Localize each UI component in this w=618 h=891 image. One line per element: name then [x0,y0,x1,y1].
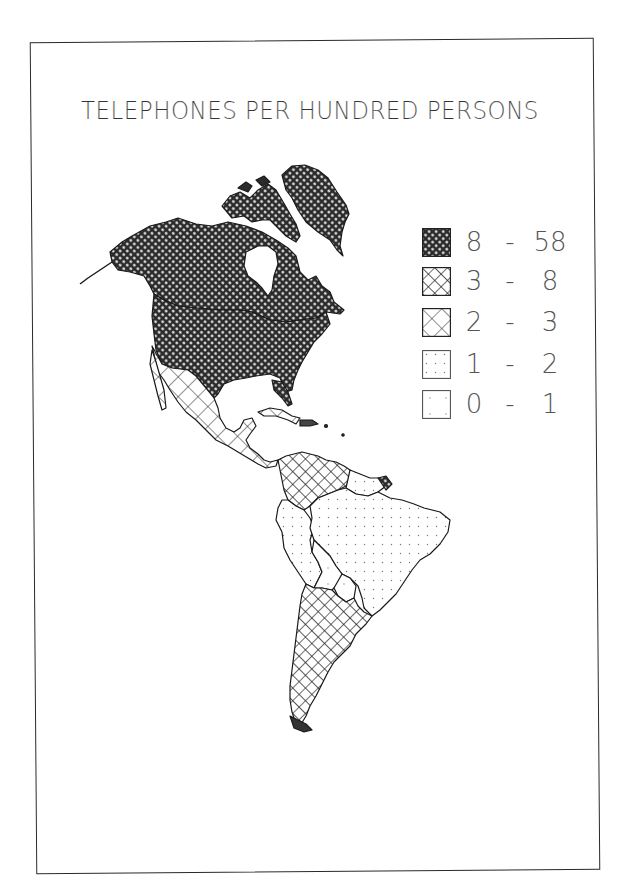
region-greenland [282,165,349,256]
legend-item: 1 - 2 [422,350,582,380]
legend-item: 3 - 8 [422,267,582,297]
legend-dash: - [500,226,520,258]
legend-swatch-medium-crosshatch [422,267,451,296]
legend-low: 2 [462,306,486,338]
region-canada-alaska [110,218,344,322]
legend-dash: - [500,388,520,420]
legend-swatch-dots [422,350,451,379]
legend-high: 58 [528,226,572,258]
legend-high: 2 [528,348,572,380]
legend-item: 8 - 58 [422,228,582,258]
legend-low: 1 [462,348,486,380]
legend-high: 8 [528,265,572,297]
legend-swatch-dense-crosshatch [422,228,451,257]
legend-low: 0 [462,388,486,420]
legend-item: 2 - 3 [422,308,582,338]
legend-high: 3 [528,306,572,338]
region-southern-cone [290,584,372,726]
legend-dash: - [500,306,520,338]
legend-swatch-sparse-crosshatch [422,308,451,337]
legend-dash: - [500,348,520,380]
americas-map [0,0,618,891]
region-cuba [258,408,300,424]
legend-high: 1 [528,388,572,420]
legend-low: 8 [462,226,486,258]
legend-swatch-sparse-dots [422,390,451,419]
legend-item: 0 - 1 [422,390,582,420]
region-aleutians [80,262,112,284]
legend-low: 3 [462,265,486,297]
legend-dash: - [500,265,520,297]
